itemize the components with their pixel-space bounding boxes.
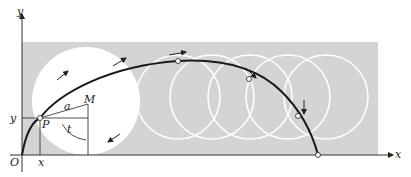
cycloid-diagram: y x O P M a t x y (0, 0, 411, 177)
radius-a-label: a (64, 100, 71, 113)
center-m-label: M (83, 93, 96, 106)
x-coordinate-label: x (38, 156, 45, 169)
x-axis-label: x (395, 148, 402, 161)
y-axis-label: y (16, 5, 24, 18)
y-coordinate-label: y (9, 112, 17, 125)
origin-label: O (10, 156, 19, 169)
point-p-label: P (41, 118, 50, 131)
angle-t-label: t (67, 123, 72, 136)
